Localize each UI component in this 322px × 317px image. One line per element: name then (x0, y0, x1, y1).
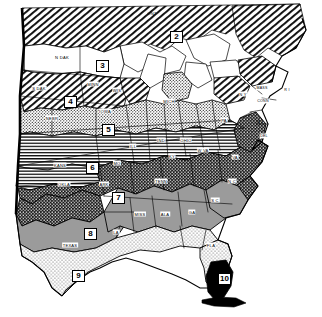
state-label-okla: OKLA (58, 182, 71, 187)
zone-badge-5: 5 (102, 124, 115, 136)
state-label-pa: PA (221, 118, 228, 123)
zone-badge-7: 7 (112, 192, 125, 204)
state-label-wis: WIS (112, 88, 121, 93)
state-label-ri: R I (284, 88, 290, 93)
state-label-mass: MASS (256, 86, 268, 91)
state-label-ga: GA (188, 210, 195, 215)
state-label-ny: N Y (239, 92, 248, 97)
state-label-wva: W VA (197, 148, 209, 153)
state-label-nc: N C (228, 179, 237, 184)
state-label-texas: TEXAS (62, 243, 78, 248)
state-label-ala: ALA (160, 212, 170, 217)
state-label-sdak: S DAK (32, 86, 47, 91)
state-label-del: DEL (260, 134, 269, 139)
state-label-tenn: TENN (154, 179, 167, 184)
state-label-conn: CONN (257, 99, 270, 104)
zone-badge-4: 4 (64, 96, 77, 108)
state-label-ndak: N DAK (55, 55, 70, 60)
state-label-mo: MO (113, 161, 121, 166)
state-label-fla: FLA (206, 243, 215, 248)
state-label-nebr: NEBR (45, 116, 58, 121)
state-label-ont: ONT (147, 11, 157, 16)
state-label-ill: ILL (129, 144, 136, 149)
state-label-mich: MICH (163, 99, 175, 104)
zone-badge-3: 3 (96, 60, 109, 72)
zone-badge-9: 9 (72, 270, 85, 282)
state-label-la: LA (113, 230, 120, 235)
state-label-ky: KY (169, 154, 176, 159)
state-label-ohio: OHIO (180, 138, 192, 143)
state-label-iowa: IOWA (99, 109, 112, 114)
state-label-ind: IND (157, 138, 166, 143)
zone-badge-10: 10 (218, 273, 231, 285)
zone-badge-6: 6 (86, 162, 99, 174)
state-label-va: VA (232, 155, 239, 160)
state-label-ark: ARK (99, 182, 109, 187)
map-canvas (0, 0, 322, 317)
state-label-miss: MISS (134, 212, 146, 217)
state-label-sc: S C (211, 198, 220, 203)
state-label-minn: MINN (87, 82, 99, 87)
zone-badge-2: 2 (170, 31, 183, 43)
zone-badge-8: 8 (84, 228, 97, 240)
state-label-nj: N J (256, 120, 263, 125)
thematic-map-figure: N DAK S DAK MINN WIS NEBR IOWA MICH ONT … (0, 0, 322, 317)
state-label-kans: KANS (53, 163, 66, 168)
